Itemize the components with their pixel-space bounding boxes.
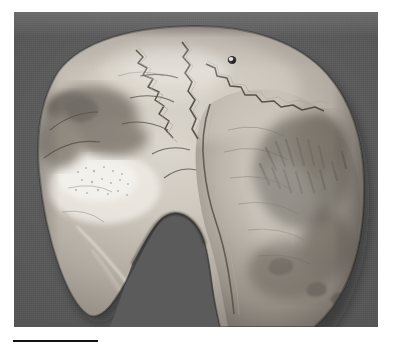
specimen-calvaria bbox=[14, 12, 378, 327]
figure-page bbox=[0, 0, 399, 348]
calvaria-illustration bbox=[14, 12, 378, 327]
specimen-photograph bbox=[14, 12, 378, 327]
scale-bar bbox=[13, 340, 98, 342]
